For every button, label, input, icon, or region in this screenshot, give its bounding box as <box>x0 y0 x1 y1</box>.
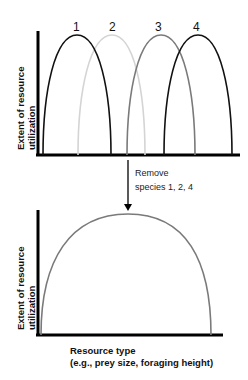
species-4-label: 4 <box>193 20 200 34</box>
svg-text:Extent of resource: Extent of resource <box>15 67 26 150</box>
arrow-note-line2: species 1, 2, 4 <box>135 182 193 192</box>
svg-text:utilization: utilization <box>26 285 37 330</box>
arrow-note-line1: Remove <box>135 168 169 178</box>
x-axis-label-line1: Resource type <box>70 345 135 356</box>
niche-partitioning-diagram: 1 2 3 4 Extent of resource utilization R… <box>0 0 248 380</box>
svg-text:utilization: utilization <box>26 105 37 150</box>
svg-text:Extent of resource: Extent of resource <box>15 247 26 330</box>
remove-species-arrow: Remove species 1, 2, 4 <box>124 160 193 211</box>
species-3-label: 3 <box>155 20 162 34</box>
top-panel: 1 2 3 4 Extent of resource utilization <box>15 20 240 156</box>
species-3-expanded-curve <box>41 214 211 335</box>
species-3-curve <box>127 35 195 155</box>
species-2-label: 2 <box>109 20 116 34</box>
species-1-label: 1 <box>73 20 80 34</box>
arrow-head-icon <box>124 204 132 211</box>
species-4-curve <box>164 35 232 155</box>
bottom-y-label: Extent of resource utilization <box>15 247 37 330</box>
x-axis-label-line2: (e.g., prey size, foraging height) <box>70 357 213 368</box>
species-1-curve <box>43 35 111 155</box>
bottom-panel: Extent of resource utilization Resource … <box>15 210 223 368</box>
top-y-label: Extent of resource utilization <box>15 67 37 150</box>
